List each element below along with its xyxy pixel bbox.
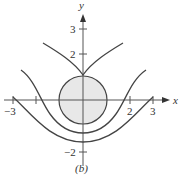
x-axis-arrow-icon bbox=[162, 97, 170, 103]
level-curves-diagram: x y −3 2 3 3 2 −2 (b) bbox=[0, 0, 183, 176]
figure-caption: (b) bbox=[75, 162, 88, 175]
y-tick-label-3: 3 bbox=[70, 23, 76, 35]
x-tick-label-neg3: −3 bbox=[4, 105, 16, 117]
y-axis-label: y bbox=[78, 0, 84, 11]
x-tick-label-2: 2 bbox=[127, 105, 133, 117]
y-axis-arrow-icon bbox=[80, 14, 86, 22]
x-axis-label: x bbox=[172, 94, 178, 106]
y-tick-label-neg2: −2 bbox=[64, 146, 76, 158]
y-tick-label-2: 2 bbox=[70, 48, 76, 60]
x-tick-label-3: 3 bbox=[150, 105, 156, 117]
